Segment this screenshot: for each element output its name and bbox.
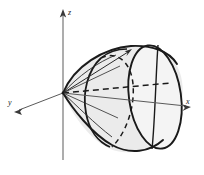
figure-container: z [0,0,204,175]
axis-x-label: x [185,97,190,106]
cone-axes-diagram: z [0,0,204,175]
origin-point [62,92,65,95]
axis-y-label: y [7,98,12,107]
